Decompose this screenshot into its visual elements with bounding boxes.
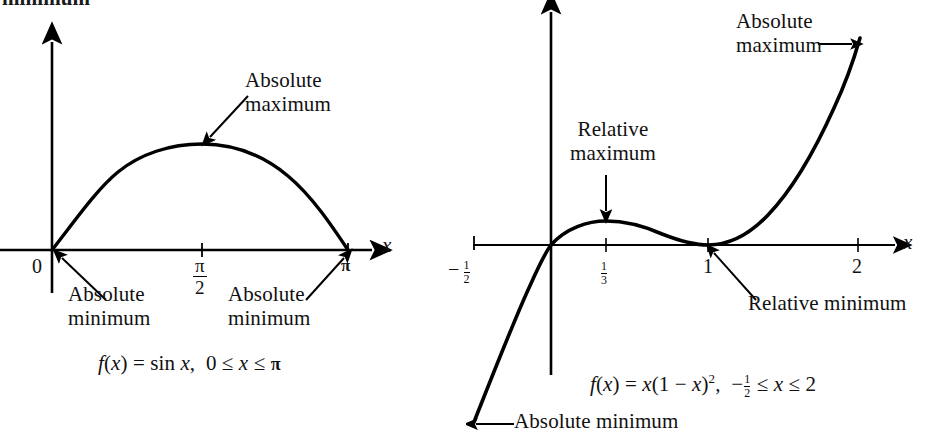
right-caption-one: 1 bbox=[659, 372, 670, 396]
left-absmin-left-line1: Absolute bbox=[68, 282, 145, 306]
right-caption-half-num: 1 bbox=[744, 373, 750, 385]
left-sine-curve bbox=[52, 144, 348, 250]
one-third-numerator: 1 bbox=[601, 260, 607, 272]
right-caption-paren-open: ( bbox=[652, 372, 659, 396]
left-absolute-minimum-left-label: Absolute minimum bbox=[68, 283, 150, 330]
right-caption-le2: ≤ bbox=[788, 372, 800, 396]
pi-over-2-denominator: 2 bbox=[193, 278, 207, 297]
left-caption-pi: π bbox=[271, 354, 281, 374]
neg-half-fraction: 1 2 bbox=[464, 259, 470, 285]
right-relmax-line1: Relative bbox=[578, 117, 649, 141]
one-third-denominator: 3 bbox=[601, 274, 607, 286]
extrema-figure: minimum Absolute maximum 0 bbox=[0, 0, 932, 436]
neg-half-numerator: 1 bbox=[464, 259, 470, 271]
right-graph-svg bbox=[466, 0, 932, 436]
neg-half-sign: − bbox=[448, 258, 459, 280]
right-caption-two: 2 bbox=[805, 372, 816, 396]
left-caption-close: ) bbox=[120, 351, 127, 375]
right-relmax-line2: maximum bbox=[570, 141, 656, 165]
left-absolute-maximum-leader bbox=[210, 96, 248, 137]
left-tick-label-pi: π bbox=[341, 256, 350, 275]
right-caption-le1: ≤ bbox=[757, 372, 769, 396]
right-caption-var2: x bbox=[642, 372, 651, 396]
left-caption-sin: sin bbox=[150, 351, 175, 375]
pi-over-2-numerator: π bbox=[193, 256, 207, 275]
right-tick-label-one-third: 1 3 bbox=[601, 260, 607, 286]
right-relative-minimum-label: Relative minimum bbox=[748, 292, 907, 316]
left-caption-le2: ≤ bbox=[254, 351, 266, 375]
right-absolute-minimum-label: Absolute minimum bbox=[514, 410, 678, 434]
left-tick-label-0: 0 bbox=[32, 255, 42, 277]
right-tick-label-neg-one-half: − 1 2 bbox=[448, 258, 470, 285]
right-caption-close: ) bbox=[612, 372, 619, 396]
pi-over-2-fraction: π 2 bbox=[193, 256, 207, 297]
left-absolute-maximum-line2: maximum bbox=[245, 92, 331, 116]
right-absmax-line2: maximum bbox=[736, 33, 822, 57]
left-caption-open: ( bbox=[104, 351, 111, 375]
right-tick-label-one: 1 bbox=[703, 255, 713, 277]
right-caption-var4: x bbox=[774, 372, 783, 396]
neg-half-denominator: 2 bbox=[464, 273, 470, 285]
right-x-axis-label: x bbox=[903, 231, 912, 255]
left-absolute-minimum-right-leader bbox=[306, 258, 344, 300]
left-caption-comma: , bbox=[190, 351, 195, 375]
left-caption-le1: ≤ bbox=[222, 351, 234, 375]
left-absolute-maximum-line1: Absolute bbox=[245, 68, 322, 92]
right-absmax-line1: Absolute bbox=[736, 9, 813, 33]
left-x-axis-label: x bbox=[382, 234, 391, 258]
left-absmin-right-line2: minimum bbox=[228, 306, 310, 330]
left-absmin-left-line2: minimum bbox=[68, 306, 150, 330]
right-caption-minus: − bbox=[675, 372, 687, 396]
left-caption-var3: x bbox=[239, 351, 248, 375]
left-caption-eq: = bbox=[133, 351, 145, 375]
left-tick-label-pi-over-2: π 2 bbox=[193, 256, 207, 297]
right-caption-paren-close: ) bbox=[701, 372, 708, 396]
right-caption-half-den: 2 bbox=[744, 387, 750, 399]
right-caption-eq: = bbox=[625, 372, 637, 396]
left-caption-var2: x bbox=[180, 351, 189, 375]
right-relative-maximum-label: Relative maximum bbox=[570, 118, 656, 165]
left-absmin-right-line1: Absolute bbox=[228, 282, 305, 306]
left-absolute-minimum-right-label: Absolute minimum bbox=[228, 283, 310, 330]
right-caption-comma: , bbox=[715, 372, 720, 396]
left-absolute-maximum-label: Absolute maximum bbox=[245, 69, 331, 116]
right-caption-neg: − bbox=[731, 372, 743, 396]
left-caption-zero: 0 bbox=[206, 351, 217, 375]
left-graph-caption: f(x) = sin x, 0 ≤ x ≤ π bbox=[98, 352, 281, 376]
one-third-fraction: 1 3 bbox=[601, 260, 607, 286]
right-graph-caption: f(x) = x(1 − x)2, −12 ≤ x ≤ 2 bbox=[590, 372, 816, 399]
right-cubic-curve bbox=[474, 38, 860, 422]
right-caption-half-fraction: 12 bbox=[744, 373, 750, 399]
right-tick-label-two: 2 bbox=[852, 255, 862, 277]
right-caption-open: ( bbox=[596, 372, 603, 396]
right-absolute-maximum-label: Absolute maximum bbox=[736, 10, 822, 57]
